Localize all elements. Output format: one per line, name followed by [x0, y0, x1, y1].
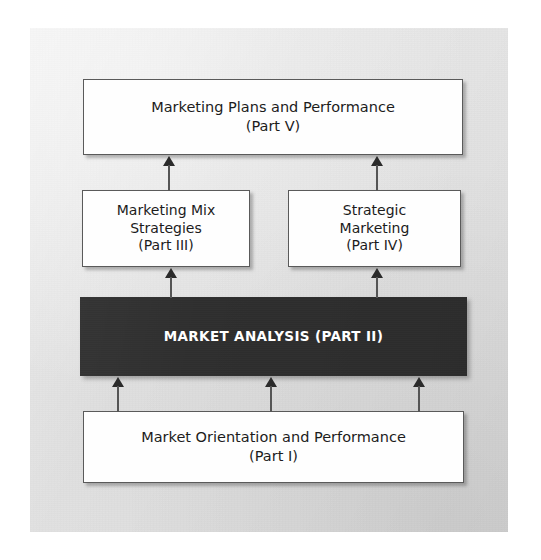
arrow-part2-to-part3 [163, 268, 178, 298]
node-marketing-plans-and-performance: Marketing Plans and Performance (Part V) [83, 79, 463, 155]
node-label-line-1: Marketing Mix [117, 202, 215, 220]
node-label-line-1: MARKET ANALYSIS [164, 328, 310, 344]
arrow-part1-to-part2-left [110, 377, 125, 412]
node-label-line-2: Strategies [117, 220, 215, 238]
node-label: Market Orientation and Performance (Part… [135, 428, 412, 465]
node-label-line-2: (Part I) [141, 447, 406, 466]
arrow-shaft [376, 165, 378, 191]
node-label-line-1: Strategic [340, 202, 410, 220]
node-label: Strategic Marketing (Part IV) [334, 202, 416, 256]
arrow-shaft [376, 277, 378, 298]
arrow-part2-to-part4 [369, 268, 384, 298]
node-label-line-1: Marketing Plans and Performance [151, 98, 395, 117]
arrow-shaft [117, 386, 119, 412]
node-label: Marketing Mix Strategies (Part III) [111, 202, 221, 256]
node-market-orientation-and-performance: Market Orientation and Performance (Part… [83, 411, 464, 483]
node-label-line-2: (PART II) [315, 328, 383, 344]
arrow-shaft [168, 165, 170, 191]
node-label-line-2: Marketing [340, 220, 410, 238]
node-label: Marketing Plans and Performance (Part V) [145, 98, 401, 135]
node-label-line-3: (Part III) [117, 237, 215, 255]
arrow-part4-to-part5 [369, 156, 384, 191]
arrow-shaft [270, 386, 272, 412]
node-marketing-mix-strategies: Marketing Mix Strategies (Part III) [82, 190, 250, 267]
node-market-analysis: MARKET ANALYSIS (PART II) [80, 297, 467, 376]
arrow-shaft [418, 386, 420, 412]
node-strategic-marketing: Strategic Marketing (Part IV) [288, 190, 461, 267]
arrow-part3-to-part5 [161, 156, 176, 191]
node-label-line-2: (Part V) [151, 117, 395, 136]
node-label-line-1: Market Orientation and Performance [141, 428, 406, 447]
node-label-line-3: (Part IV) [340, 237, 410, 255]
arrow-shaft [170, 277, 172, 298]
arrow-part1-to-part2-center [263, 377, 278, 412]
node-label: MARKET ANALYSIS (PART II) [164, 327, 383, 345]
arrow-part1-to-part2-right [411, 377, 426, 412]
